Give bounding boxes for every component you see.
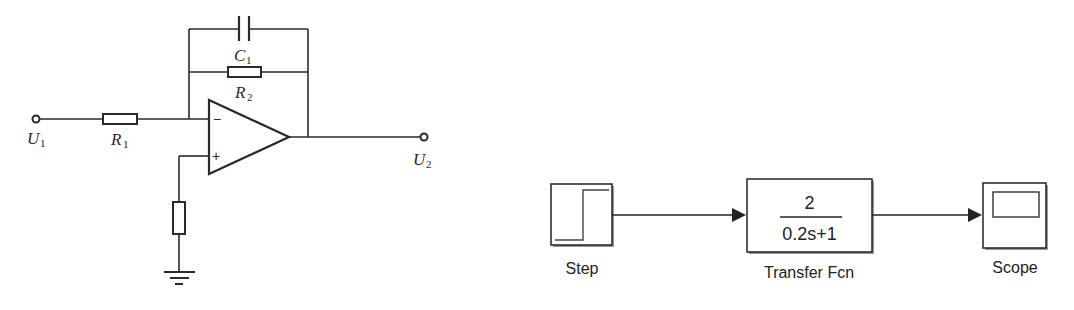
transfer-fcn-label: Transfer Fcn (764, 264, 854, 281)
scope-block[interactable] (983, 183, 1048, 250)
diagram-canvas: − + U 1 R 1 C 1 R 2 U 2 Step (0, 0, 1074, 310)
scope-screen-icon (993, 192, 1039, 217)
tf-denominator: 0.2s+1 (782, 224, 837, 244)
tf-numerator: 2 (804, 193, 814, 213)
signal-line-tf-to-scope[interactable] (872, 208, 982, 222)
step-block[interactable] (551, 184, 614, 247)
step-block-label: Step (566, 260, 599, 277)
transfer-fcn-block[interactable]: 2 0.2s+1 (747, 179, 874, 254)
simulink-model: Step 2 0.2s+1 Transfer Fcn Scope (0, 0, 1074, 310)
signal-line-step-to-tf[interactable] (612, 208, 746, 222)
scope-block-label: Scope (992, 259, 1037, 276)
